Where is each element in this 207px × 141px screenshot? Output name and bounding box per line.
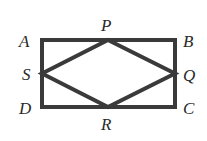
label-b: B [183,32,194,51]
rectangle-abcd [42,40,175,107]
label-a: A [18,32,30,51]
label-r: R [100,115,112,134]
label-d: D [18,99,32,118]
label-c: C [183,99,195,118]
geometry-diagram: A P B S Q D R C [0,0,207,141]
label-s: S [22,65,31,84]
label-q: Q [183,66,195,85]
label-p: P [100,16,111,35]
rhombus-pqrs [42,40,175,107]
